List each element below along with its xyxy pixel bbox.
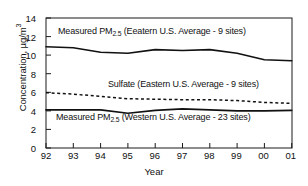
y-tick-marks	[46, 18, 51, 148]
annotation-eastern-pm25-label: Measured PM2.5 (Eeatern U.S. Average - 9…	[58, 26, 246, 36]
annotation-western-pm25-rest: (Western U.S. Average - 23 sites)	[119, 112, 250, 122]
annotation-eastern-pm25-rest: (Eeatern U.S. Average - 9 sites)	[121, 26, 245, 36]
annotation-sulfate-text: Sulfate (Eastern U.S. Average - 9 sites)	[108, 79, 259, 89]
annotation-western-pm25-sub: 2.5	[110, 116, 119, 123]
annotation-sulfate-label: Sulfate (Eastern U.S. Average - 9 sites)	[108, 79, 259, 89]
annotation-eastern-pm25-text: Measured PM	[58, 26, 112, 36]
annotation-western-pm25-text: Measured PM	[56, 112, 110, 122]
annotation-eastern-pm25-sub: 2.5	[112, 30, 121, 37]
pm25-sulfate-trend-chart: Concentration, µg/m3 14 12 10 8 6 4 2 0 …	[0, 0, 308, 186]
annotation-western-pm25-label: Measured PM2.5 (Western U.S. Average - 2…	[56, 112, 251, 122]
series-line-eastern-pm25	[46, 47, 292, 61]
series-line-eastern-sulfate	[46, 93, 292, 104]
x-tick-marks	[46, 143, 292, 148]
